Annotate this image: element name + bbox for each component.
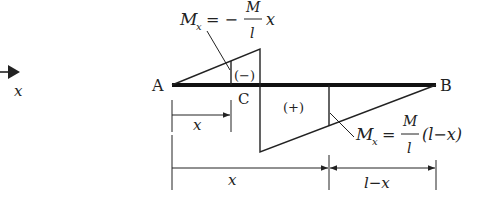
diagram-svg: x A B C (−) (+) M x = − M l x M x = M l …: [0, 0, 487, 199]
svg-text:x: x: [372, 136, 378, 147]
leader-right: [330, 113, 354, 137]
dimension-long-x-label: x: [228, 171, 237, 189]
svg-text:M: M: [245, 0, 261, 15]
svg-text:l: l: [250, 25, 254, 41]
x-axis-arrow-icon: [0, 65, 20, 79]
svg-text:x: x: [266, 10, 275, 29]
svg-text:M: M: [402, 113, 418, 129]
x-axis-label: x: [14, 82, 23, 100]
formula-right: M x = M l (l−x): [355, 113, 462, 156]
svg-text:l: l: [407, 140, 411, 156]
dimension-short-x-label: x: [193, 116, 202, 134]
svg-text:x: x: [196, 21, 202, 32]
negative-region-label: (−): [234, 68, 255, 83]
point-a-label: A: [151, 76, 164, 95]
leader-left: [207, 31, 230, 70]
moment-diagram: x A B C (−) (+) M x = − M l x M x = M l …: [0, 0, 487, 199]
point-c-label: C: [238, 90, 249, 108]
point-b-label: B: [440, 76, 452, 95]
svg-text:=: =: [382, 125, 395, 144]
dimension-remainder-label: l−x: [364, 174, 390, 192]
svg-text:= −: = −: [206, 10, 238, 29]
formula-left: M x = − M l x: [179, 0, 275, 41]
svg-text:(l−x): (l−x): [422, 125, 462, 144]
positive-region-label: (+): [283, 100, 304, 115]
